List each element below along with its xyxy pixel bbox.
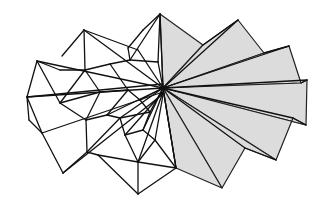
wire-edge xyxy=(84,30,85,70)
wire-edge xyxy=(27,97,42,133)
central-hub xyxy=(161,86,165,90)
wire-edge xyxy=(128,30,143,48)
wire-edge xyxy=(107,90,128,115)
wire-edge xyxy=(120,118,125,135)
wire-edge xyxy=(42,133,63,173)
wire-edge xyxy=(138,162,176,168)
wire-edge xyxy=(128,48,130,60)
wire-edge xyxy=(27,61,37,97)
wire-edge xyxy=(29,120,42,133)
wire-edge xyxy=(85,64,110,70)
wire-edge xyxy=(138,140,155,162)
wire-edge xyxy=(84,30,138,50)
wire-edge xyxy=(86,120,87,152)
shaded-panels xyxy=(160,14,307,188)
wire-edge xyxy=(143,112,150,130)
wire-edge xyxy=(158,14,160,62)
wire-edge xyxy=(60,70,85,103)
wireframe-triangles xyxy=(27,14,176,194)
illustration-svg xyxy=(0,0,320,206)
wire-edge xyxy=(87,118,120,152)
wire-edge xyxy=(125,135,138,162)
wire-edge xyxy=(128,90,140,100)
folded-fan-illustration: Line drawing of a folded polyhedral fan:… xyxy=(0,0,320,206)
wire-edge xyxy=(60,103,86,120)
wire-edge xyxy=(62,30,84,56)
wire-edge xyxy=(107,115,120,118)
wire-edge xyxy=(130,14,160,60)
wire-edge xyxy=(27,84,163,97)
wire-edge xyxy=(138,168,176,194)
